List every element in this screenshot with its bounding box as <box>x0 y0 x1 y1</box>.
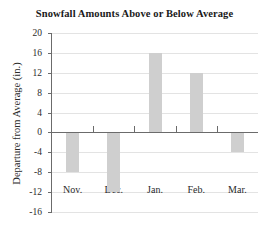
gridline <box>52 172 258 173</box>
x-axis-tick <box>93 126 94 132</box>
y-axis-tick-label: -16 <box>29 207 42 217</box>
y-axis-tick-label: -4 <box>34 147 42 157</box>
y-axis-tick-label: -8 <box>34 167 42 177</box>
chart-title: Snowfall Amounts Above or Below Average <box>0 8 269 19</box>
y-axis-tick-label: 12 <box>33 68 43 78</box>
y-axis-tick-label: 8 <box>37 88 42 98</box>
x-axis-tick <box>134 126 135 132</box>
y-axis-tick: 16 <box>48 53 52 54</box>
x-axis-label-feb: Feb. <box>187 184 205 195</box>
snowfall-bar-chart: Snowfall Amounts Above or Below Average … <box>0 0 269 252</box>
x-axis-tick <box>217 126 218 132</box>
y-axis-tick-label: 0 <box>37 127 42 137</box>
y-axis-tick: -8 <box>48 172 52 173</box>
y-axis-tick-label: 16 <box>33 48 43 58</box>
bar-mar <box>231 132 244 152</box>
zero-baseline <box>52 132 258 133</box>
y-axis-tick: 20 <box>48 33 52 34</box>
bar-feb <box>190 73 203 133</box>
y-axis-tick: -16 <box>48 212 52 213</box>
y-axis-title: Departure from Average (in.) <box>11 34 22 214</box>
y-axis-tick: 8 <box>48 93 52 94</box>
gridline <box>52 33 258 34</box>
y-axis-tick-label: 20 <box>33 28 43 38</box>
gridline <box>52 152 258 153</box>
bar-jan <box>149 53 162 133</box>
x-axis-label-jan: Jan. <box>147 184 163 195</box>
x-axis-tick <box>176 126 177 132</box>
x-axis-label-mar: Mar. <box>228 184 247 195</box>
y-axis-tick-label: 4 <box>37 108 42 118</box>
gridline <box>52 212 258 213</box>
y-axis-tick: 4 <box>48 113 52 114</box>
y-axis-tick: 12 <box>48 73 52 74</box>
y-axis-tick: -12 <box>48 192 52 193</box>
x-axis-label-nov: Nov. <box>63 184 82 195</box>
bar-dec <box>107 132 120 192</box>
y-axis-tick: -4 <box>48 152 52 153</box>
y-axis-tick-label: -12 <box>29 187 42 197</box>
bar-nov <box>66 132 79 172</box>
